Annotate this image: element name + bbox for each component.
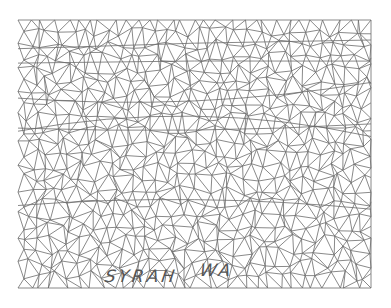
street-label-syrah: SYRAH: [104, 266, 179, 286]
tin-mesh-wireframe: [0, 0, 391, 308]
mesh-edges: [18, 20, 371, 288]
street-label-wa: WA: [199, 260, 235, 280]
